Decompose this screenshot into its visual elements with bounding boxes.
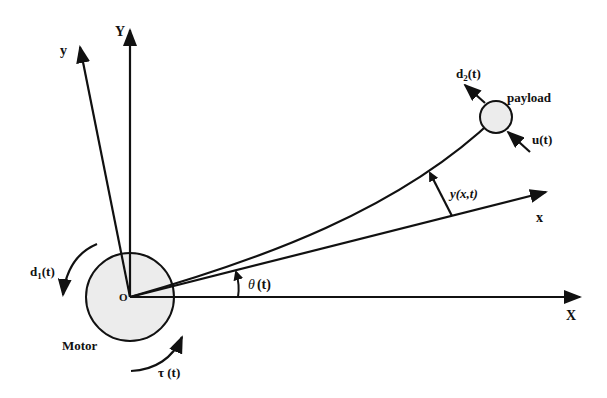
origin-label: O (119, 291, 128, 303)
d1-label: d1(t) (30, 264, 55, 281)
payload-mass (480, 101, 512, 133)
flexible-beam (130, 117, 496, 297)
X-axis-label: X (566, 308, 576, 323)
Y-axis-label: Y (115, 24, 125, 39)
deflection-arrow (430, 173, 452, 216)
d2-arrow (465, 85, 485, 103)
u-label: u(t) (532, 132, 552, 147)
theta-arc (236, 272, 239, 297)
torque-label: τ (t) (158, 365, 180, 380)
theta-label: θ(t) (248, 277, 271, 293)
x-axis-label: x (536, 210, 543, 225)
flexible-manipulator-diagram: Y y X x payload d2(t) u(t) y(x,t) θ(t) O… (0, 0, 607, 398)
y-axis (80, 47, 130, 297)
d2-label: d2(t) (456, 66, 481, 83)
motor-label: Motor (62, 338, 98, 353)
deflection-label: y(x,t) (448, 186, 478, 201)
u-arrow (508, 132, 530, 152)
x-axis (130, 192, 546, 297)
y-axis-label: y (60, 43, 67, 58)
payload-label: payload (507, 90, 552, 105)
